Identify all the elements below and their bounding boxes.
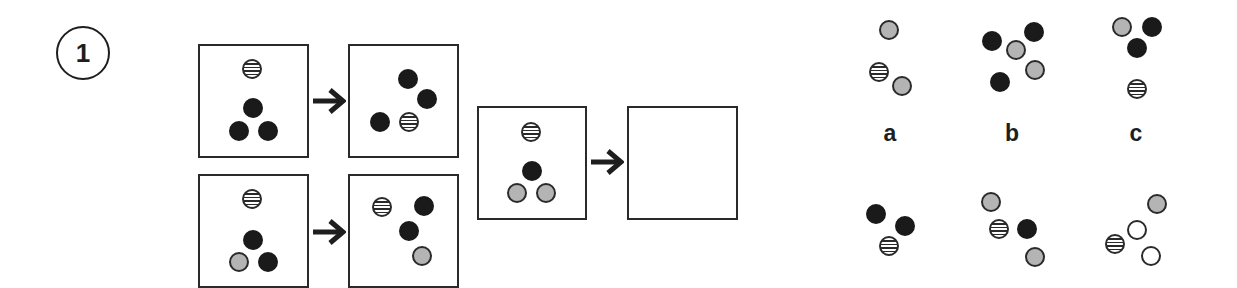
black-circle-icon	[895, 216, 915, 236]
black-circle-icon	[982, 31, 1002, 51]
example-1-after-panel	[348, 44, 459, 158]
right-arrow-icon	[590, 149, 624, 175]
gray-circle-icon	[981, 192, 1001, 212]
black-circle-icon	[1127, 38, 1147, 58]
striped-circle-icon	[242, 189, 262, 209]
black-circle-icon	[398, 69, 418, 89]
gray-circle-icon	[1025, 247, 1045, 267]
striped-circle-icon	[989, 219, 1009, 239]
gray-circle-icon	[507, 183, 527, 203]
black-circle-icon	[414, 196, 434, 216]
gray-circle-icon	[879, 20, 899, 40]
striped-circle-icon	[399, 112, 419, 132]
gray-circle-icon	[229, 252, 249, 272]
striped-circle-icon	[869, 62, 889, 82]
black-circle-icon	[243, 98, 263, 118]
answer-panel[interactable]	[627, 106, 738, 220]
black-circle-icon	[370, 112, 390, 132]
gray-circle-icon	[1147, 194, 1167, 214]
black-circle-icon	[990, 72, 1010, 92]
white-circle-icon	[1141, 246, 1161, 266]
gray-circle-icon	[536, 183, 556, 203]
gray-circle-icon	[412, 246, 432, 266]
black-circle-icon	[258, 121, 278, 141]
right-arrow-icon	[312, 88, 346, 114]
right-arrow-icon	[312, 219, 346, 245]
black-circle-icon	[417, 89, 437, 109]
striped-circle-icon	[521, 122, 541, 142]
striped-circle-icon	[879, 236, 899, 256]
option-label-b[interactable]: b	[1005, 122, 1019, 145]
black-circle-icon	[866, 204, 886, 224]
striped-circle-icon	[372, 197, 392, 217]
striped-circle-icon	[242, 59, 262, 79]
black-circle-icon	[258, 252, 278, 272]
black-circle-icon	[1024, 22, 1044, 42]
striped-circle-icon	[1105, 234, 1125, 254]
option-label-c[interactable]: c	[1130, 122, 1143, 145]
gray-circle-icon	[1006, 40, 1026, 60]
gray-circle-icon	[1112, 17, 1132, 37]
gray-circle-icon	[1025, 60, 1045, 80]
white-circle-icon	[1127, 220, 1147, 240]
black-circle-icon	[1142, 17, 1162, 37]
black-circle-icon	[399, 221, 419, 241]
gray-circle-icon	[892, 76, 912, 96]
black-circle-icon	[522, 161, 542, 181]
black-circle-icon	[229, 121, 249, 141]
option-label-a[interactable]: a	[884, 122, 897, 145]
black-circle-icon	[1017, 219, 1037, 239]
striped-circle-icon	[1127, 79, 1147, 99]
black-circle-icon	[243, 230, 263, 250]
